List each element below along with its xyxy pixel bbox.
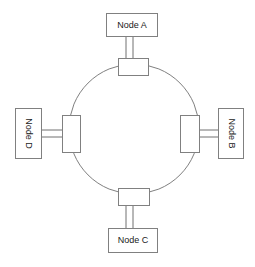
node-a-label: Node A [117,21,147,30]
ring-connector-right[interactable] [180,115,200,153]
node-c-label: Node C [118,236,149,245]
ring-connector-top[interactable] [118,58,149,76]
node-a-box[interactable]: Node A [106,13,158,37]
ring-connector-bottom[interactable] [118,188,150,206]
node-b-box[interactable]: Node B [218,108,244,159]
node-c-box[interactable]: Node C [108,228,158,253]
node-b-label: Node B [227,118,236,148]
ring-connector-left[interactable] [62,115,81,153]
node-d-box[interactable]: Node D [15,108,42,159]
node-d-label: Node D [24,118,33,149]
ring-network-diagram: Node A Node B Node C Node D [0,0,255,267]
